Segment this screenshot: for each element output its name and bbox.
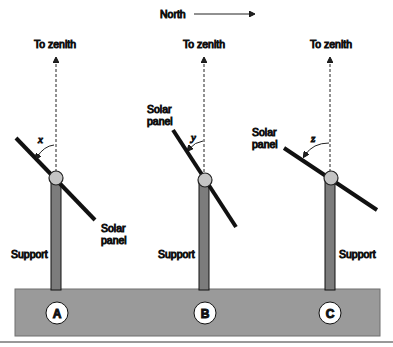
panel-label-c-2: panel (252, 138, 278, 150)
angle-arc-a (37, 145, 54, 157)
pivot-a (49, 171, 63, 185)
setup-a: To zenith x Solar panel Support A (11, 38, 127, 324)
angle-label-x: x (37, 133, 43, 145)
solar-panel-diagram: North To zenith x Solar panel Support A … (0, 0, 393, 347)
angle-label-y: y (190, 131, 196, 143)
setup-b: To zenith y Solar panel Support B (147, 38, 236, 324)
zenith-label-b: To zenith (183, 38, 225, 50)
panel-label-a-2: panel (101, 234, 127, 246)
support-post-a (51, 180, 61, 290)
support-label-b: Support (158, 248, 195, 260)
pivot-b (198, 173, 212, 187)
panel-label-a-1: Solar (101, 222, 126, 234)
angle-label-z: z (310, 132, 316, 144)
zenith-label-a: To zenith (34, 38, 76, 50)
marker-c: C (326, 307, 335, 321)
pivot-c (324, 171, 338, 185)
support-label-c: Support (339, 248, 376, 260)
support-post-b (199, 182, 209, 290)
panel-label-b-2: panel (147, 115, 173, 127)
zenith-label-c: To zenith (310, 38, 352, 50)
panel-label-c-1: Solar (252, 126, 277, 138)
marker-a: A (53, 307, 62, 321)
support-post-c (325, 182, 335, 290)
setup-c: To zenith z Solar panel Support C (252, 38, 377, 324)
marker-b: B (201, 307, 210, 321)
support-label-a: Support (11, 248, 48, 260)
angle-arc-c (305, 143, 329, 155)
panel-label-b-1: Solar (147, 103, 172, 115)
north-label: North (160, 8, 186, 20)
